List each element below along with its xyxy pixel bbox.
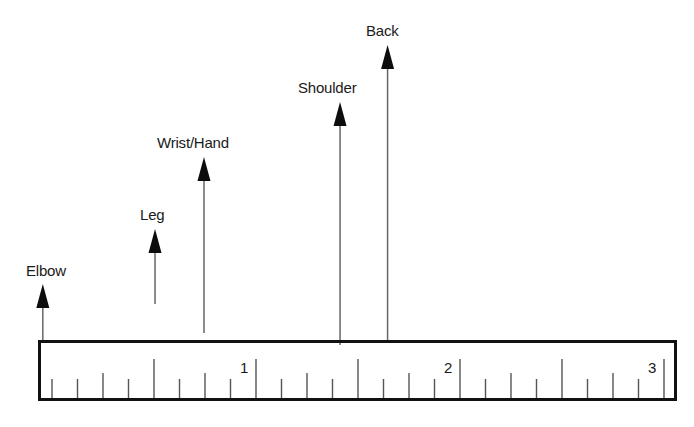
arrowhead-icon [149,229,162,253]
arrow-label-leg: Leg [140,207,164,222]
arrow-label-elbow: Elbow [26,263,66,278]
ruler [40,342,676,400]
ruler-number-1: 1 [240,360,248,375]
ruler-number-3: 3 [648,360,656,375]
arrowhead-icon [197,157,210,181]
arrow-back [381,45,394,340]
ruler-number-2: 2 [444,360,452,375]
arrow-wrist-hand [197,157,210,333]
arrow-label-shoulder: Shoulder [298,80,356,95]
arrowhead-icon [334,102,347,126]
arrowhead-icon [381,45,394,69]
arrow-leg [149,229,162,304]
arrowhead-icon [36,284,49,308]
arrow-elbow [36,284,49,340]
arrow-shoulder [334,102,347,345]
arrow-label-wrist-hand: Wrist/Hand [157,135,229,150]
ruler-diagram [0,0,694,427]
arrow-label-back: Back [366,23,399,38]
